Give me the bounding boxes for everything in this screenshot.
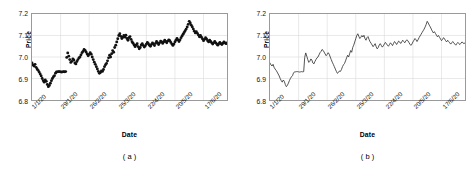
panel-b: 7.27.17.06.96.8 Price Date ( b ) 1/1/202…	[238, 0, 475, 177]
panel-caption-b: ( b )	[269, 152, 466, 161]
plot-area-a	[31, 13, 228, 101]
x-axis-label-a: Date	[31, 131, 228, 138]
y-tick-label: 6.8	[2, 98, 28, 105]
panel-a: 7.27.17.06.96.8 Price Date ( a ) 1/1/202…	[0, 0, 237, 177]
x-axis-label-b: Date	[269, 131, 466, 138]
plot-area-b	[269, 13, 466, 101]
y-tick-label: 6.8	[240, 98, 266, 105]
y-tick-label: 6.9	[240, 76, 266, 83]
y-tick-label: 6.9	[2, 76, 28, 83]
line-plot-b	[270, 14, 465, 100]
scatter-plot-a	[32, 14, 227, 100]
figure-container: 7.27.17.06.96.8 Price Date ( a ) 1/1/202…	[0, 0, 475, 177]
panel-caption-a: ( a )	[31, 152, 228, 161]
